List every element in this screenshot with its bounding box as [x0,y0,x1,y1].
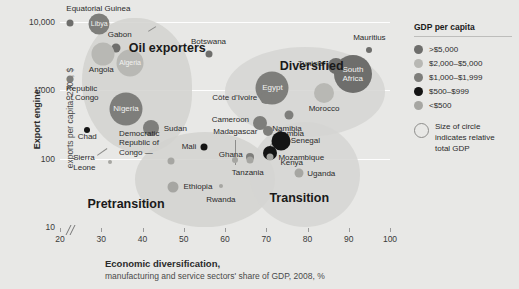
bubble-label: Equatorial Guinea [66,4,130,13]
legend-divider [414,36,512,37]
bubble-label: SierraLeone [73,153,95,171]
y-axis-title: Export engine, [32,87,42,150]
bubble-label: Morocco [309,105,340,114]
data-bubble [232,157,238,163]
data-bubble [168,158,175,165]
y-axis-tick-label: 10,000 [29,17,55,27]
bubble-label: Algeria [119,59,141,67]
data-bubble [284,111,293,120]
data-bubble [314,83,334,103]
bubble-label: Gabon [108,31,132,40]
legend-item[interactable]: $500–$999 [414,84,514,98]
bubble-label: Mali [182,142,197,151]
x-axis-tick-label: 80 [303,234,312,244]
data-bubble [67,76,74,83]
bubble-label: Republicof Congo [66,84,98,102]
x-axis-tick-mark [266,228,267,232]
bubble-label: Ethiopia [183,183,212,192]
legend-item[interactable]: <$500 [414,98,514,112]
bubble-label: Côte d’Ivoire [212,93,257,102]
bubble-label: Angola [89,65,114,74]
plot-area: 10,0001,000100102030405060708090100Equat… [60,22,390,227]
legend: GDP per capita >$5,000$2,000–$5,000$1,00… [414,22,514,154]
data-bubble [205,51,212,58]
bubble-label: Rwanda [206,195,235,204]
x-axis-title-block: Economic diversification, manufacturing … [105,258,405,281]
bubble-label: Chad [78,133,97,142]
bubble-label: Uganda [307,169,335,178]
bubble-label: Mozambique [278,154,324,163]
bubble-label: Egypt [262,83,282,92]
axis-break-icon [64,223,80,239]
cluster-title: Oil exporters [129,41,206,55]
legend-title: GDP per capita [414,22,514,32]
data-bubble [366,47,372,53]
bubble-label: Ghana [219,151,243,160]
cluster-title: Pretransition [87,197,164,211]
bubble-label: Cameroon [212,116,249,125]
x-axis-tick-label: 70 [262,234,271,244]
leader-line [97,148,108,156]
x-axis-tick-label: 40 [138,234,147,244]
legend-item[interactable]: $1,000–$1,999 [414,70,514,84]
y-axis-tick-label: 1,000 [34,85,55,95]
bubble-label: Madagascar [213,128,257,137]
data-bubble [246,157,253,164]
bubble-label: DemocraticRepublic ofCongo ― [119,129,159,157]
legend-swatch-icon [414,101,423,110]
x-axis-tick-mark [308,228,309,232]
legend-item-label: $2,000–$5,000 [429,59,482,68]
y-axis-tick-label: 100 [41,154,55,164]
legend-swatch-icon [414,59,423,68]
x-axis-tick-mark [184,228,185,232]
x-axis-tick-label: 30 [97,234,106,244]
bubble-label: Senegal [291,137,320,146]
legend-size-line1: Size of circle [435,122,495,133]
x-axis-tick-label: 100 [383,234,397,244]
cluster-title: Diversified [280,59,344,73]
x-axis-tick-mark [143,228,144,232]
chart-root: Export engine, exports per capita, 2008,… [0,0,519,289]
x-axis-tick-label: 90 [344,234,353,244]
data-bubble [108,160,112,164]
bubble-label: Mauritius [353,33,385,42]
data-bubble [67,19,74,26]
bubble-label: SouthAfrica [342,65,363,83]
legend-size-line3: total GDP [435,144,495,155]
bubble-label: Libya [91,20,108,28]
data-bubble [267,154,274,161]
legend-item-label: <$500 [429,101,451,110]
x-axis-tick-mark [349,228,350,232]
x-axis-tick-mark [101,228,102,232]
legend-item[interactable]: $2,000–$5,000 [414,56,514,70]
x-axis-tick-mark [225,228,226,232]
legend-size-line2: indicates relative [435,133,495,144]
x-axis-title: Economic diversification, [105,258,405,269]
legend-item-label: $500–$999 [429,87,469,96]
legend-size-note: Size of circle indicates relative total … [414,122,514,154]
legend-swatch-icon [414,73,423,82]
x-axis-tick-mark [60,228,61,232]
data-bubble [168,182,179,193]
data-bubble [295,168,304,177]
legend-item-label: $1,000–$1,999 [429,73,482,82]
data-bubble [260,92,272,104]
y-axis-tick-label: 10 [46,222,55,232]
legend-swatch-icon [414,45,423,54]
bubble-label: Sudan [164,125,187,134]
y-axis-title-text: Export engine, [32,87,42,150]
legend-item[interactable]: >$5,000 [414,42,514,56]
bubble-label: Nigeria [113,105,138,114]
legend-item-label: >$5,000 [429,45,458,54]
cluster-title: Transition [269,191,329,205]
data-bubble [201,143,208,150]
x-axis-tick-label: 60 [220,234,229,244]
x-axis-subtitle: manufacturing and service sectors' share… [105,271,405,281]
data-bubble [92,43,115,66]
x-axis-tick-label: 50 [179,234,188,244]
data-bubble [219,184,223,188]
x-axis-tick-mark [390,228,391,232]
bubble-label: Tanzania [232,169,264,178]
legend-items: >$5,000$2,000–$5,000$1,000–$1,999$500–$9… [414,42,514,112]
circle-outline-icon [414,123,429,138]
